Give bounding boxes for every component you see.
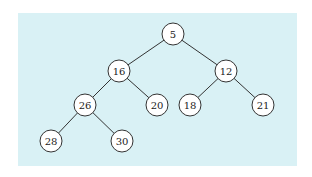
tree-edges — [51, 34, 263, 141]
binary-tree-diagram: 51612262018212830 — [0, 0, 312, 177]
node-label: 20 — [151, 100, 164, 111]
node-label: 18 — [184, 100, 197, 111]
tree-node-16: 16 — [108, 60, 130, 82]
node-label: 5 — [170, 29, 176, 40]
node-label: 16 — [113, 66, 126, 77]
node-label: 21 — [257, 100, 270, 111]
tree-node-21: 21 — [252, 94, 274, 116]
tree-nodes: 51612262018212830 — [40, 23, 274, 152]
tree-node-12: 12 — [215, 60, 237, 82]
tree-node-5: 5 — [162, 23, 184, 45]
tree-node-26: 26 — [74, 94, 96, 116]
tree-node-20: 20 — [146, 94, 168, 116]
tree-node-18: 18 — [179, 94, 201, 116]
node-label: 28 — [45, 136, 58, 147]
tree-node-28: 28 — [40, 130, 62, 152]
node-label: 30 — [116, 136, 129, 147]
node-label: 26 — [79, 100, 92, 111]
node-label: 12 — [220, 66, 233, 77]
tree-node-30: 30 — [111, 130, 133, 152]
